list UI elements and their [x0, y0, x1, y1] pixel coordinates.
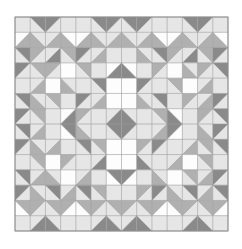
quilt-triangle	[182, 155, 197, 170]
quilt-triangle	[45, 155, 60, 170]
quilt-triangle	[137, 109, 152, 124]
quilt-triangle	[167, 216, 182, 231]
quilt-triangle	[15, 216, 30, 231]
quilt-triangle	[182, 78, 197, 93]
quilt-triangle	[15, 17, 30, 32]
quilt-triangle	[91, 170, 106, 185]
quilt-triangle	[61, 93, 76, 108]
quilt-triangle	[122, 155, 137, 170]
quilt-triangle	[61, 17, 76, 32]
quilt-triangle	[167, 17, 182, 32]
quilt-triangle	[91, 63, 106, 78]
quilt-triangle	[182, 124, 197, 139]
quilt-triangle	[61, 170, 76, 185]
quilt-triangle	[152, 216, 167, 231]
quilt-triangle	[91, 109, 106, 124]
quilt-triangle	[152, 155, 167, 170]
quilt-triangle	[61, 63, 76, 78]
quilt-triangle	[137, 124, 152, 139]
quilt-triangle	[167, 63, 182, 78]
quilt-triangle	[106, 155, 121, 170]
quilt-triangle	[15, 78, 30, 93]
quilt-triangle	[76, 216, 91, 231]
quilt-triangle	[15, 155, 30, 170]
quilt-triangle	[106, 139, 121, 154]
quilt-triangle	[45, 109, 60, 124]
quilt-triangle	[167, 93, 182, 108]
quilt-triangle	[137, 170, 152, 185]
quilt-triangle	[152, 17, 167, 32]
quilt-triangle	[122, 48, 137, 63]
quilt-triangle	[76, 17, 91, 32]
quilt-triangle	[167, 139, 182, 154]
quilt-triangle	[167, 170, 182, 185]
quilt-triangle	[152, 78, 167, 93]
quilt-triangle	[137, 63, 152, 78]
quilt-triangle	[213, 216, 228, 231]
quilt-triangle	[213, 155, 228, 170]
quilt-triangle	[213, 17, 228, 32]
quilt-triangle	[106, 93, 121, 108]
quilt-triangle	[122, 185, 137, 200]
quilt-triangle	[76, 155, 91, 170]
quilt-triangle	[106, 48, 121, 63]
quilt-triangle	[76, 78, 91, 93]
quilt-triangle	[122, 93, 137, 108]
quilt-triangle	[61, 139, 76, 154]
quilt-triangle	[106, 185, 121, 200]
quilt-triangle	[213, 78, 228, 93]
quilt-triangle	[122, 78, 137, 93]
quilt-pattern-canvas	[0, 0, 242, 249]
quilt-triangle	[182, 109, 197, 124]
quilt-triangle	[106, 78, 121, 93]
quilt-triangle	[45, 124, 60, 139]
quilt-triangle	[91, 124, 106, 139]
quilt-pattern-figure	[0, 0, 242, 249]
quilt-triangle	[45, 78, 60, 93]
quilt-triangle	[61, 216, 76, 231]
quilt-triangle	[122, 139, 137, 154]
